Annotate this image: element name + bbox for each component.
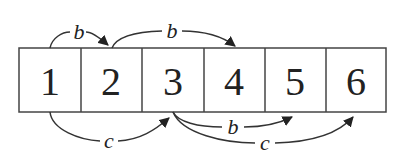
edge-label-3-6: c <box>260 130 270 155</box>
cell-row <box>19 48 386 112</box>
cell-3: 3 <box>163 59 183 104</box>
sequence-diagram: 1 2 3 4 5 6 b b c b c <box>0 0 396 158</box>
cell-5: 5 <box>285 59 305 104</box>
cell-6: 6 <box>346 59 366 104</box>
cell-2: 2 <box>101 59 121 104</box>
cell-1: 1 <box>40 59 60 104</box>
edge-label-3-5: b <box>228 114 239 139</box>
edge-label-1-3: c <box>104 128 114 153</box>
edge-label-1-2: b <box>74 19 85 44</box>
cell-4: 4 <box>224 59 244 104</box>
edge-label-2-4: b <box>167 18 178 43</box>
